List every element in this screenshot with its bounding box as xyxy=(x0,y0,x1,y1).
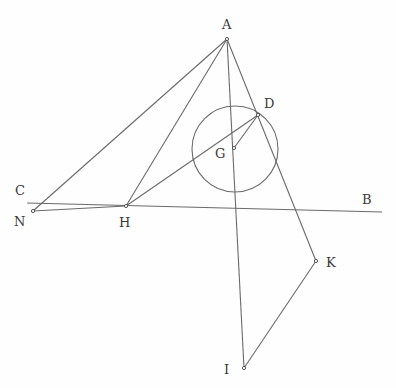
point-n xyxy=(31,209,34,212)
geometry-diagram: ABCDGHNKI xyxy=(0,0,396,388)
label-g: G xyxy=(215,146,225,161)
labels-layer: ABCDGHNKI xyxy=(14,17,372,377)
label-k: K xyxy=(326,255,336,270)
segment-gd xyxy=(234,115,258,148)
segment-nh xyxy=(33,206,126,211)
label-i: I xyxy=(224,362,229,377)
label-c: C xyxy=(15,183,25,198)
segment-an xyxy=(33,39,227,211)
label-n: N xyxy=(14,214,25,229)
segments-layer xyxy=(27,39,382,368)
point-h xyxy=(124,204,127,207)
segment-ai xyxy=(227,39,244,368)
point-i xyxy=(242,366,245,369)
segment-ak xyxy=(227,39,316,261)
segment-cb xyxy=(27,203,382,212)
point-a xyxy=(225,37,228,40)
point-g xyxy=(232,146,235,149)
point-k xyxy=(314,259,317,262)
point-d xyxy=(256,113,259,116)
label-h: H xyxy=(119,215,130,230)
points-layer xyxy=(31,37,317,369)
label-b: B xyxy=(362,192,372,207)
diagram-svg: ABCDGHNKI xyxy=(0,0,396,388)
label-d: D xyxy=(264,96,274,111)
segment-ki xyxy=(244,261,316,368)
label-a: A xyxy=(221,17,232,32)
segment-ah xyxy=(126,39,227,206)
